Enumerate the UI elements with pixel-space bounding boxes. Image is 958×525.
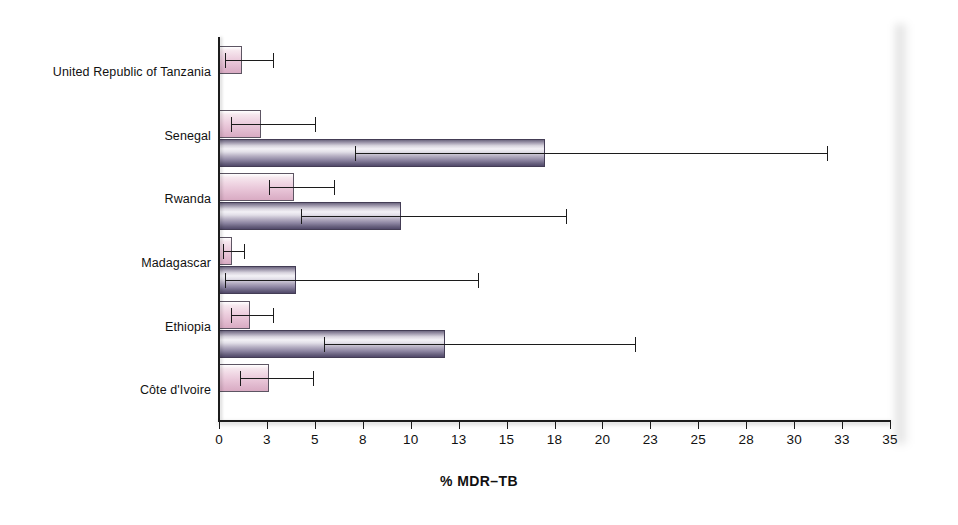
page-shadow	[896, 24, 910, 444]
category-label: Senegal	[164, 129, 211, 143]
x-tick-label: 15	[499, 432, 514, 447]
x-tick	[219, 422, 220, 429]
x-tick-label: 0	[215, 432, 223, 447]
bar-new-cases-error-cap-low	[223, 244, 224, 259]
x-tick-label: 23	[643, 432, 658, 447]
bar-new-cases-error-cap-high	[273, 308, 274, 323]
x-tick-label: 35	[882, 432, 897, 447]
bar-previously-treated-error-cap-low	[225, 273, 226, 288]
category-label: Côte d'Ivoire	[140, 383, 211, 397]
x-tick	[602, 422, 603, 429]
category-label: Ethiopia	[165, 320, 211, 334]
bar-previously-treated-error-cap-high	[566, 209, 567, 224]
bar-new-cases-error-cap-high	[334, 180, 335, 195]
x-tick	[746, 422, 747, 429]
x-tick-label: 33	[834, 432, 849, 447]
bar-previously-treated-error-cap-low	[324, 337, 325, 352]
bar-previously-treated-error-cap-high	[635, 337, 636, 352]
bar-previously-treated-error-cap-high	[827, 146, 828, 161]
x-tick	[698, 422, 699, 429]
category-label: United Republic of Tanzania	[53, 65, 211, 79]
plot-area: United Republic of TanzaniaSenegalRwanda…	[0, 0, 958, 525]
x-tick	[267, 422, 268, 429]
x-tick-label: 3	[263, 432, 271, 447]
x-tick-label: 8	[359, 432, 367, 447]
x-tick	[411, 422, 412, 429]
x-tick	[650, 422, 651, 429]
x-tick	[315, 422, 316, 429]
x-tick	[507, 422, 508, 429]
bar-new-cases-error-line	[240, 378, 313, 379]
bar-new-cases-error-cap-high	[313, 371, 314, 386]
bar-new-cases-error-cap-high	[315, 117, 316, 132]
bar-previously-treated-error-line	[324, 344, 635, 345]
bar-new-cases-error-cap-high	[273, 53, 274, 68]
x-tick-label: 5	[311, 432, 319, 447]
bar-previously-treated-error-cap-low	[355, 146, 356, 161]
bar-previously-treated-error-cap-low	[301, 209, 302, 224]
bar-new-cases-error-line	[231, 315, 273, 316]
bar-previously-treated-error-line	[301, 216, 566, 217]
x-tick-label: 28	[738, 432, 753, 447]
x-tick	[890, 422, 891, 429]
bar-previously-treated-error-line	[355, 153, 827, 154]
x-tick-label: 25	[691, 432, 706, 447]
x-tick	[459, 422, 460, 429]
chart-figure: United Republic of TanzaniaSenegalRwanda…	[0, 0, 958, 525]
bar-new-cases-error-cap-low	[269, 180, 270, 195]
x-tick-label: 20	[595, 432, 610, 447]
x-tick	[794, 422, 795, 429]
bar-new-cases-error-cap-low	[231, 308, 232, 323]
y-axis-line	[218, 37, 220, 421]
bar-previously-treated-error-line	[225, 280, 478, 281]
category-label: Madagascar	[141, 256, 211, 270]
x-tick	[842, 422, 843, 429]
bar-new-cases-error-cap-low	[240, 371, 241, 386]
bar-new-cases-error-line	[225, 60, 273, 61]
bar-new-cases-error-cap-high	[244, 244, 245, 259]
x-tick-label: 18	[547, 432, 562, 447]
x-tick	[555, 422, 556, 429]
x-tick-label: 10	[403, 432, 418, 447]
x-tick	[363, 422, 364, 429]
x-tick-label: 30	[786, 432, 801, 447]
x-axis-title: % MDR–TB	[0, 473, 958, 489]
bar-new-cases-error-line	[231, 124, 315, 125]
bar-new-cases-error-line	[269, 187, 334, 188]
x-tick-label: 13	[451, 432, 466, 447]
bar-new-cases-error-cap-low	[231, 117, 232, 132]
category-label: Rwanda	[165, 192, 211, 206]
bar-previously-treated-error-cap-high	[478, 273, 479, 288]
bar-new-cases-error-cap-low	[225, 53, 226, 68]
y-axis-category-labels: United Republic of TanzaniaSenegalRwanda…	[0, 0, 211, 525]
bar-new-cases-error-line	[223, 251, 244, 252]
